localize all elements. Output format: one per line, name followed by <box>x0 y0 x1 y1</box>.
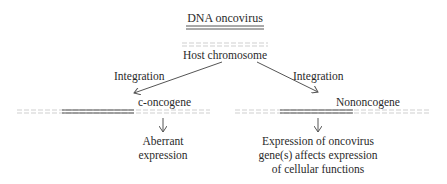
left-outcome-line: Aberrant <box>138 134 187 148</box>
diagram-canvas <box>0 0 447 184</box>
left-chromosome-line <box>17 110 210 113</box>
host-chromosome-label: Host chromosome <box>183 48 267 62</box>
c-oncogene-label: c-oncogene <box>138 95 191 109</box>
right-outcome-text: Expression of oncovirus gene(s) affects … <box>258 134 377 176</box>
title-underline <box>186 26 264 29</box>
left-outcome-text: Aberrant expression <box>138 134 187 162</box>
host-chromosome-line <box>182 43 268 46</box>
nononcogene-label: Nononcogene <box>336 95 400 109</box>
right-outcome-line: gene(s) affects expression <box>258 148 377 162</box>
left-outcome-line: expression <box>138 148 187 162</box>
left-integration-label: Integration <box>114 69 164 83</box>
diagram-title: DNA oncovirus <box>187 11 263 25</box>
right-outcome-line: Expression of oncovirus <box>258 134 377 148</box>
right-outcome-line: of cellular functions <box>258 162 377 176</box>
right-chromosome-line <box>235 110 430 113</box>
right-integration-label: Integration <box>293 69 343 83</box>
